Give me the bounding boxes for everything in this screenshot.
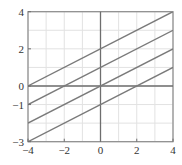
- x-tick-label: 2: [134, 144, 140, 156]
- y-tick-label: 2: [19, 43, 25, 55]
- zero-axes: [28, 12, 173, 142]
- y-tick-label: −3: [12, 136, 24, 148]
- x-tick-label: −2: [58, 144, 70, 156]
- x-tick-label: 0: [98, 144, 104, 156]
- line-chart: −4−2024 420−1−3: [0, 0, 182, 165]
- y-tick-label: −1: [12, 99, 24, 111]
- x-tick-label: 4: [170, 144, 176, 156]
- y-tick-label: 4: [19, 6, 25, 18]
- y-tick-label: 0: [19, 80, 25, 92]
